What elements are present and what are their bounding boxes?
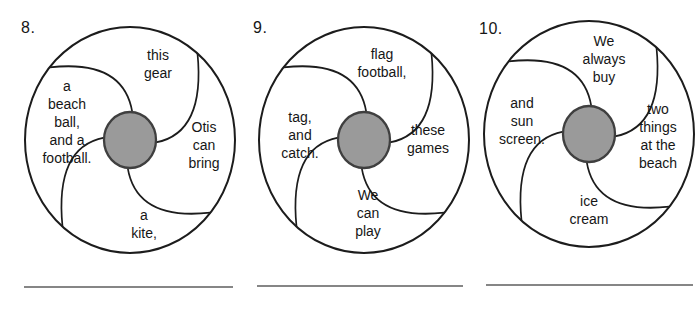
answer-line-8	[24, 286, 233, 288]
segment-10-left: and sun screen.	[499, 94, 545, 148]
segment-8-top: this gear	[144, 46, 172, 82]
answer-line-10	[486, 284, 693, 286]
segment-9-left: tag, and catch.	[281, 108, 318, 162]
segment-9-right: these games	[407, 121, 449, 157]
segment-8-bottom: a kite,	[131, 206, 157, 242]
segment-9-top: flag football,	[357, 45, 406, 81]
worksheet-page: 8. this gear Otis can bring a kite, a be…	[0, 0, 698, 313]
segment-8-left: a beach ball, and a football.	[42, 77, 91, 167]
segment-10-top: We always buy	[583, 32, 626, 86]
answer-line-9	[257, 285, 463, 287]
segment-9-bottom: We can play	[355, 186, 381, 240]
segment-10-right: two things at the beach	[639, 100, 677, 172]
segment-8-right: Otis can bring	[188, 118, 219, 172]
segment-10-bottom: ice cream	[570, 192, 609, 228]
